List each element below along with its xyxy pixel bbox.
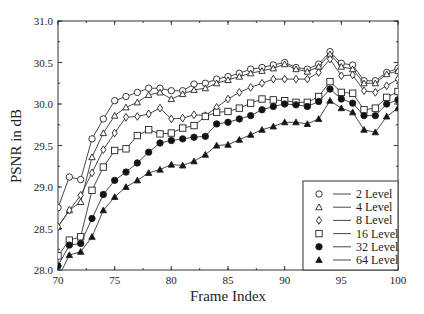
y-tick-label: 28.5 <box>34 223 54 235</box>
y-tick-label: 29.0 <box>34 181 54 193</box>
y-tick-label: 30.0 <box>34 98 54 110</box>
x-tick-label: 100 <box>390 274 407 286</box>
chart-canvas: 28.028.529.029.530.030.531.0707580859095… <box>0 0 424 314</box>
x-axis-label: Frame Index <box>190 288 267 304</box>
legend-label: 4 Level <box>356 200 393 214</box>
legend: 2 Level4 Level8 Level16 Level32 Level64 … <box>303 181 399 270</box>
x-tick-label: 80 <box>166 274 178 286</box>
legend-label: 16 Level <box>356 227 399 241</box>
x-tick-label: 70 <box>53 274 65 286</box>
legend-label: 32 Level <box>356 240 399 254</box>
x-tick-label: 75 <box>109 274 121 286</box>
legend-label: 8 Level <box>356 213 393 227</box>
y-tick-label: 30.5 <box>34 57 54 69</box>
x-tick-label: 90 <box>279 274 291 286</box>
legend-label: 2 Level <box>356 187 393 201</box>
psnr-line-chart: 28.028.529.029.530.030.531.0707580859095… <box>0 0 424 314</box>
y-tick-label: 29.5 <box>34 140 54 152</box>
x-tick-label: 85 <box>223 274 235 286</box>
y-tick-label: 31.0 <box>34 15 54 27</box>
legend-label: 64 Level <box>356 253 399 267</box>
y-tick-label: 28.0 <box>34 264 54 276</box>
x-tick-label: 95 <box>336 274 348 286</box>
y-axis-label: PSNR in dB <box>8 109 24 183</box>
